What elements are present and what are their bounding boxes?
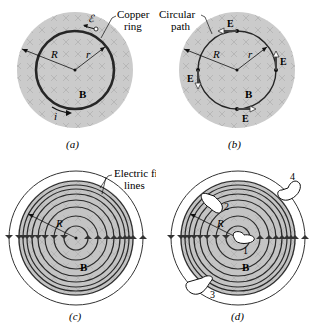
label-B: B [80, 261, 88, 273]
svg-text:E: E [187, 73, 194, 84]
svg-text:E: E [280, 56, 287, 67]
panel-c-diagram: R B Electric field lines (c) [0, 164, 156, 328]
label-R: R [55, 217, 63, 229]
label-ring: ring [124, 20, 142, 32]
label-circular: Circular [159, 8, 195, 20]
path-label-2: 2 [224, 201, 229, 212]
label-lines: lines [124, 179, 145, 191]
caption-c: (c) [69, 310, 82, 323]
path-label-3: 3 [210, 289, 215, 300]
label-i: i [54, 110, 57, 122]
label-R: R [50, 48, 58, 60]
caption-a: (a) [66, 138, 79, 151]
label-emf: ℰ [88, 13, 95, 24]
path-label-4: 4 [290, 171, 295, 182]
label-B: B [79, 88, 87, 100]
panel-c: R B Electric field lines (c) [0, 164, 156, 328]
panel-b: R r B E E E E Circular path (b [156, 0, 312, 164]
path-label-1: 1 [243, 245, 248, 256]
closed-path-4 [278, 181, 301, 200]
label-B: B [245, 88, 253, 100]
caption-b: (b) [228, 138, 241, 151]
panel-d: R B 1 2 3 4 (d) [156, 164, 312, 328]
label-B: B [242, 261, 250, 273]
caption-d: (d) [231, 310, 244, 323]
label-path: path [171, 20, 190, 32]
label-copper: Copper [117, 8, 150, 20]
label-R: R [216, 217, 224, 229]
label-electric-field: Electric field [114, 167, 156, 179]
svg-text:E: E [242, 113, 249, 124]
panel-a-diagram: R r B ℰ Copper ring i (a) [0, 0, 156, 164]
label-r: r [86, 48, 91, 60]
label-R: R [212, 48, 220, 60]
panel-b-diagram: R r B E E E E Circular path (b [156, 0, 312, 164]
panel-d-diagram: R B 1 2 3 4 (d) [156, 164, 312, 328]
svg-text:E: E [227, 18, 234, 29]
label-r: r [248, 48, 253, 60]
panel-a: R r B ℰ Copper ring i (a) [0, 0, 156, 164]
emf-source-icon [94, 27, 98, 31]
